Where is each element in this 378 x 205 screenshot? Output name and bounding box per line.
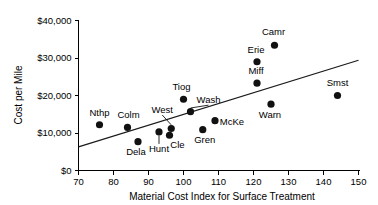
data-point (134, 138, 141, 145)
data-point (267, 101, 274, 108)
x-tick-label: 110 (211, 176, 226, 187)
y-tick-label: $10,000 (37, 127, 71, 138)
data-point-label: Nthp (89, 107, 109, 118)
x-tick-label: 150 (351, 176, 367, 187)
data-point-label: Tiog (172, 81, 190, 92)
data-point-label: Dela (126, 146, 146, 157)
x-tick-label: 140 (316, 176, 332, 187)
data-point-label: Miff (248, 65, 263, 76)
data-point-label: Wash (197, 94, 221, 105)
data-point-label: Cle (170, 139, 184, 150)
data-point-label: West (152, 104, 174, 115)
point-labels: NthpColmDelaHuntCleWestTiogWashGrenMcKeM… (89, 26, 348, 156)
data-point (199, 126, 206, 133)
data-point-label: Warn (259, 109, 281, 120)
x-tick-label: 70 (73, 176, 84, 187)
data-point-label: Gren (194, 134, 215, 145)
data-point-label: Colm (117, 109, 139, 120)
scatterplot-figure: $0$10,000$20,000$30,000$40,000 708090100… (0, 0, 378, 205)
y-axis: $0$10,000$20,000$30,000$40,000 (37, 15, 78, 176)
data-point (187, 108, 194, 115)
x-axis: 708090100110120130140150 (73, 171, 366, 187)
data-point-label: McKe (220, 116, 244, 127)
x-tick-label: 120 (246, 176, 262, 187)
data-point (168, 125, 175, 132)
data-point (124, 124, 131, 131)
x-axis-title: Material Cost Index for Surface Treatmen… (129, 191, 315, 202)
data-point (166, 132, 173, 139)
data-point-label: Smst (327, 77, 349, 88)
data-point (180, 96, 187, 103)
y-tick-label: $30,000 (37, 52, 71, 63)
y-tick-label: $20,000 (37, 90, 71, 101)
data-point (155, 128, 162, 135)
data-point-label: Erie (248, 44, 265, 55)
data-point (334, 92, 341, 99)
chart-canvas: $0$10,000$20,000$30,000$40,000 708090100… (0, 0, 378, 205)
data-point-label: Hunt (149, 143, 169, 154)
data-point (211, 117, 218, 124)
data-point-label: Camr (262, 26, 285, 37)
x-tick-label: 90 (143, 176, 154, 187)
y-axis-title: Cost per Mile (13, 65, 24, 124)
x-tick-label: 100 (176, 176, 192, 187)
data-point (96, 121, 103, 128)
y-tick-label: $0 (61, 165, 72, 176)
data-point (253, 80, 260, 87)
data-point (271, 42, 278, 49)
x-tick-label: 80 (108, 176, 119, 187)
x-tick-label: 130 (281, 176, 297, 187)
y-tick-label: $40,000 (37, 15, 71, 26)
